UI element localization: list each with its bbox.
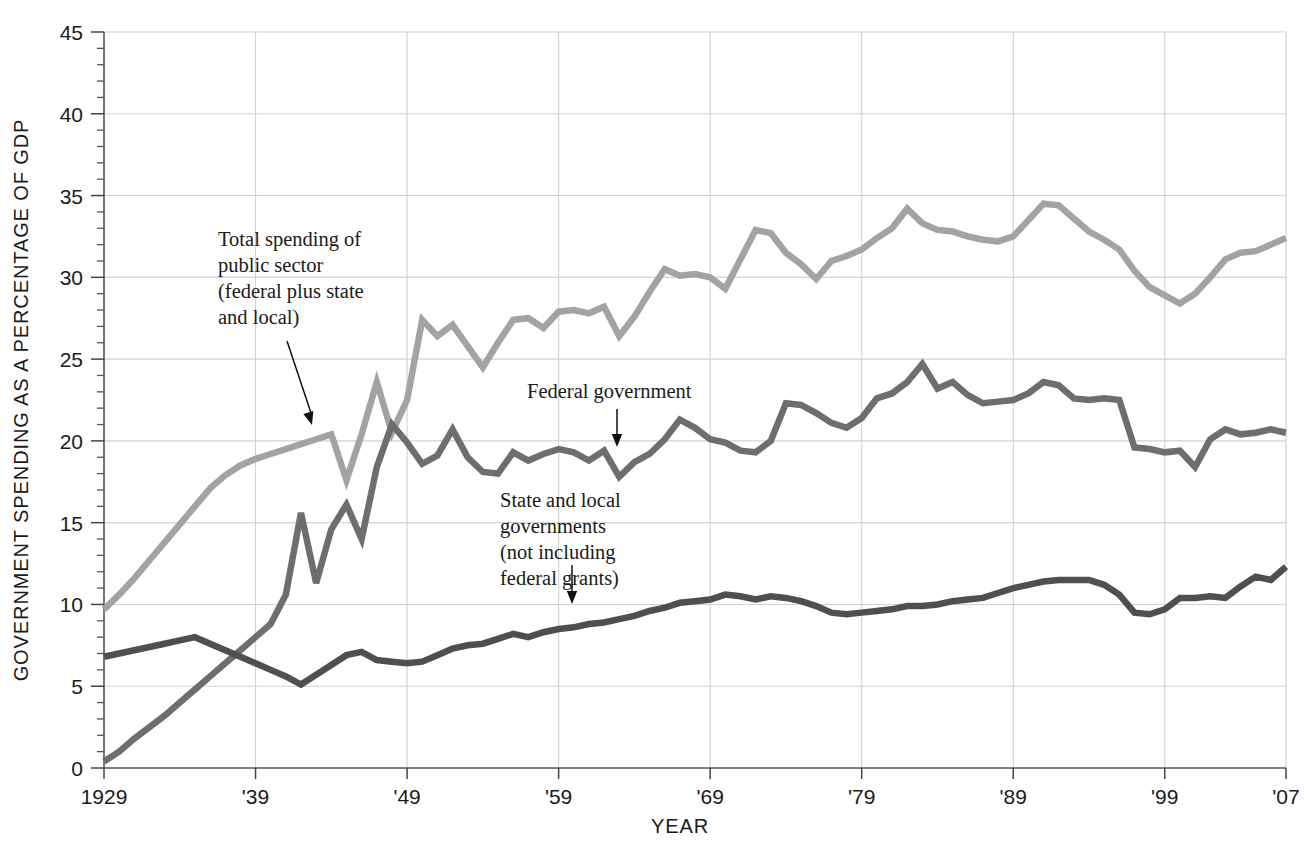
x-axis-tick-label: '89 (1000, 785, 1027, 808)
x-axis-title: YEAR (651, 815, 709, 837)
line-chart-canvas: 051015202530354045 1929'39'49'59'69'79'8… (0, 0, 1310, 851)
x-axis-tick-label: '07 (1272, 785, 1299, 808)
annotation-arrowhead (303, 411, 313, 425)
y-axis-tick-label: 30 (60, 266, 83, 289)
x-axis-tick-label: '39 (242, 785, 269, 808)
y-axis-title: GOVERNMENT SPENDING AS A PERCENTAGE OF G… (10, 119, 32, 682)
series-line-2 (104, 567, 1286, 685)
x-axis-tick-label: 1929 (81, 785, 128, 808)
annotation-arrowhead (567, 591, 577, 604)
y-axis-tick-label: 45 (60, 21, 83, 44)
series-line-1 (104, 364, 1286, 761)
y-axis-tick-label: 15 (60, 512, 83, 535)
y-axis-tick-label: 5 (71, 675, 83, 698)
y-axis-tick-label: 25 (60, 348, 83, 371)
y-axis-tick-label: 35 (60, 185, 83, 208)
annotations-group: Total spending ofpublic sector(federal p… (218, 228, 692, 604)
y-axis-tick-label: 40 (60, 103, 83, 126)
y-axis-tick-label: 20 (60, 430, 83, 453)
annotation-leader-line (287, 341, 312, 416)
x-axis-tick-labels: 1929'39'49'59'69'79'89'99'07 (81, 785, 1300, 808)
y-axis-tick-labels: 051015202530354045 (60, 21, 83, 780)
annot-state-local: State and localgovernments(not including… (500, 489, 621, 604)
annotation-text: State and localgovernments(not including… (500, 489, 621, 590)
chart-figure: 051015202530354045 1929'39'49'59'69'79'8… (0, 0, 1310, 851)
annot-total: Total spending ofpublic sector(federal p… (218, 228, 364, 425)
y-axis-tick-label: 10 (60, 593, 83, 616)
annotation-text: Federal government (527, 380, 692, 403)
x-axis-tick-label: '99 (1151, 785, 1178, 808)
x-axis-tick-label: '49 (393, 785, 420, 808)
x-axis-tick-label: '79 (848, 785, 875, 808)
annotation-text: Total spending ofpublic sector(federal p… (218, 228, 364, 329)
x-axis-tick-label: '59 (545, 785, 572, 808)
x-axis-tick-label: '69 (696, 785, 723, 808)
y-axis-tick-label: 0 (71, 757, 83, 780)
